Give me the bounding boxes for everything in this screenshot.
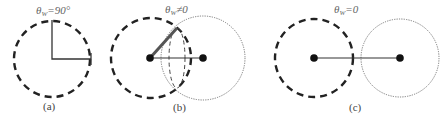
center-dot-left xyxy=(310,54,318,62)
panel-c: θW=0 (c) xyxy=(275,3,439,114)
panel-b: θW≠0 (b) xyxy=(111,3,245,114)
panel-b-theta-label: θW≠0 xyxy=(165,3,188,17)
thick-radius-line xyxy=(150,28,177,58)
panel-b-caption: (b) xyxy=(173,101,186,114)
panel-a: θW=90° (a) xyxy=(14,4,91,113)
center-dot-right xyxy=(396,54,404,62)
center-dot-right xyxy=(199,54,207,62)
center-dot-left xyxy=(146,54,154,62)
panel-a-theta-label: θW=90° xyxy=(36,4,71,18)
panel-a-caption: (a) xyxy=(43,100,56,113)
panel-c-theta-label: θW=0 xyxy=(334,3,359,17)
diagram-canvas: θW=90° (a) θW≠0 (b) θW=0 (c) xyxy=(0,0,444,120)
panel-c-caption: (c) xyxy=(349,101,362,114)
